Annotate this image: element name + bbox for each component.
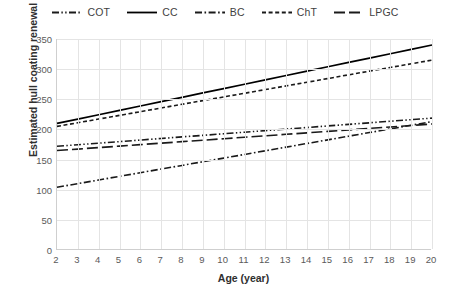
y-tick-label: 200 (18, 124, 52, 135)
x-tick-label: 8 (178, 254, 183, 265)
gridline-vertical (99, 39, 100, 249)
legend-item-cot[interactable]: COT (52, 6, 110, 18)
legend-label: LPGC (369, 6, 398, 18)
x-tick-label: 2 (53, 254, 58, 265)
legend-item-bc[interactable]: BC (195, 6, 245, 18)
x-tick-label: 11 (239, 254, 249, 265)
x-tick-label: 10 (217, 254, 228, 265)
gridline-vertical (140, 39, 141, 249)
x-tick-label: 16 (342, 254, 353, 265)
gridline-vertical (120, 39, 121, 249)
x-tick-label: 12 (259, 254, 270, 265)
legend-item-lpgc[interactable]: LPGC (334, 6, 398, 18)
x-tick-label: 4 (95, 254, 100, 265)
gridline-vertical (349, 39, 350, 249)
gridline-vertical (411, 39, 412, 249)
gridline-vertical (224, 39, 225, 249)
x-tick-label: 6 (137, 254, 142, 265)
x-tick-label: 18 (384, 254, 395, 265)
y-tick-label: 300 (18, 64, 52, 75)
x-tick-label: 3 (74, 254, 79, 265)
legend-line-icon (262, 7, 292, 18)
y-tick-label: 0 (18, 245, 52, 256)
legend-item-cc[interactable]: CC (127, 6, 178, 18)
legend-label: ChT (297, 6, 317, 18)
plot-area (56, 39, 431, 250)
legend-label: COT (87, 6, 110, 18)
y-tick-label: 50 (18, 214, 52, 225)
x-tick-label: 15 (322, 254, 333, 265)
y-axis-ticks: 050100150200250300350 (14, 39, 52, 250)
legend-label: BC (230, 6, 245, 18)
gridline-vertical (182, 39, 183, 249)
x-tick-label: 13 (280, 254, 291, 265)
gridline-vertical (328, 39, 329, 249)
gridline-vertical (265, 39, 266, 249)
line-chart: COTCCBCChTLPGC Estimated hull coating re… (0, 0, 451, 298)
x-tick-label: 5 (116, 254, 121, 265)
y-tick-label: 150 (18, 154, 52, 165)
legend-line-icon (334, 7, 364, 18)
x-tick-label: 9 (199, 254, 204, 265)
chart-legend: COTCCBCChTLPGC (0, 6, 451, 18)
gridline-vertical (307, 39, 308, 249)
x-axis-title: Age (year) (56, 272, 431, 284)
x-tick-label: 19 (405, 254, 416, 265)
legend-line-icon (127, 7, 157, 18)
legend-item-cht[interactable]: ChT (262, 6, 317, 18)
x-tick-label: 17 (363, 254, 374, 265)
x-tick-label: 20 (426, 254, 437, 265)
gridline-vertical (203, 39, 204, 249)
x-tick-label: 7 (158, 254, 163, 265)
gridline-vertical (161, 39, 162, 249)
legend-label: CC (162, 6, 178, 18)
gridline-vertical (286, 39, 287, 249)
gridline-vertical (245, 39, 246, 249)
gridline-vertical (370, 39, 371, 249)
x-axis-ticks: 234567891011121314151617181920 (56, 254, 431, 268)
legend-line-icon (195, 7, 225, 18)
gridline-vertical (78, 39, 79, 249)
legend-line-icon (52, 7, 82, 18)
y-tick-label: 250 (18, 94, 52, 105)
x-tick-label: 14 (301, 254, 312, 265)
gridline-vertical (432, 39, 433, 249)
y-tick-label: 350 (18, 34, 52, 45)
y-tick-label: 100 (18, 184, 52, 195)
gridline-vertical (390, 39, 391, 249)
